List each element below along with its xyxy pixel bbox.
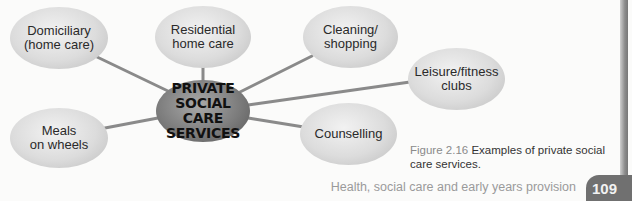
node-domiciliary: Domiciliary (home care) xyxy=(10,7,108,69)
running-title: Health, social care and early years prov… xyxy=(331,180,576,194)
figure-number: Figure 2.16 xyxy=(410,144,468,156)
figure-caption: Figure 2.16 Examples of private social c… xyxy=(410,143,610,171)
page-number: 109 xyxy=(592,180,617,197)
node-meals: Meals on wheels xyxy=(10,108,108,168)
node-leisure: Leisure/fitness clubs xyxy=(408,48,505,110)
connector-leisure xyxy=(248,82,410,105)
center-label: PRIVATE SOCIAL CARE SERVICES xyxy=(156,81,250,141)
node-label: Meals on wheels xyxy=(30,124,89,152)
connector-meals xyxy=(105,118,158,128)
node-counselling: Counselling xyxy=(300,103,397,165)
node-label: Residential home care xyxy=(171,23,235,51)
node-label: Domiciliary (home care) xyxy=(24,24,94,52)
node-label: Leisure/fitness clubs xyxy=(415,65,499,93)
node-label: Cleaning/ shopping xyxy=(323,23,378,51)
connector-cleaning xyxy=(240,56,312,92)
node-cleaning: Cleaning/ shopping xyxy=(303,6,398,68)
node-residential: Residential home care xyxy=(155,6,251,68)
page-edge-bar xyxy=(620,0,628,178)
node-center: PRIVATE SOCIAL CARE SERVICES xyxy=(156,80,250,142)
node-label: Counselling xyxy=(315,127,383,141)
page-number-badge: 109 xyxy=(586,175,632,201)
